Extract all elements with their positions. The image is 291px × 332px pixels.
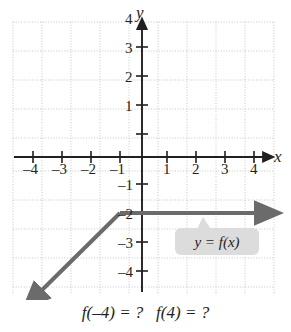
question-text: f(–4) = ? f(4) = ? <box>0 301 291 325</box>
y-tick-label-2: 2 <box>125 70 133 85</box>
curve-label-text: y = f(x) <box>175 233 259 251</box>
y-tick-label--4: –4 <box>118 265 133 280</box>
x-tick-label--3: –3 <box>52 162 67 177</box>
x-tick-label-3: 3 <box>221 162 229 177</box>
function-graph-left-ray <box>40 213 120 292</box>
y-tick-label-4: 4 <box>125 12 133 27</box>
y-tick-label-3: 3 <box>125 41 133 56</box>
y-tick-label--1: –1 <box>118 178 133 193</box>
x-axis-label: x <box>274 148 282 165</box>
y-axis-label: y <box>136 4 144 21</box>
y-tick-label--2: –2 <box>118 207 133 222</box>
coordinate-plane-svg <box>0 0 291 300</box>
x-tick-label--2: –2 <box>81 162 96 177</box>
x-tick-label-1: 1 <box>163 162 171 177</box>
figure-container: y x –4 –3 –2 –1 1 2 3 4 1 2 3 4 –1 –2 –3… <box>0 0 291 332</box>
x-tick-label--1: –1 <box>110 162 125 177</box>
y-tick-label-1: 1 <box>125 99 133 114</box>
y-tick-label--3: –3 <box>118 236 133 251</box>
x-tick-label-2: 2 <box>192 162 200 177</box>
x-tick-label--4: –4 <box>23 162 38 177</box>
x-tick-label-4: 4 <box>250 162 258 177</box>
